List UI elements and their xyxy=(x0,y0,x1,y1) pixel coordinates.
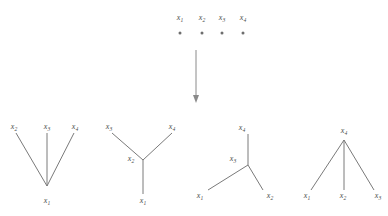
arrow-head xyxy=(193,95,199,103)
subscript: 2 xyxy=(14,126,17,132)
tree-vertex-label-3: x3 xyxy=(105,122,113,132)
subscript: 2 xyxy=(131,158,134,164)
tree-vertex-label-1: x1 xyxy=(139,196,147,206)
subscript: 1 xyxy=(180,17,183,23)
tree-vertex-label-4: x4 xyxy=(340,126,348,136)
tree-enumeration-figure: x1x2x3x4 x2x3x4x1x3x4x2x1x4x3x1x2x4x1x2x… xyxy=(0,0,388,216)
vertex-label-4: x4 xyxy=(239,13,247,23)
vertex-dot-1 xyxy=(179,32,182,35)
tree-vertex-label-2: x2 xyxy=(339,191,347,201)
tree-vertex-label-1: x1 xyxy=(303,191,311,201)
tree-vertex-label-1: x1 xyxy=(196,191,204,201)
tree-vertex-label-4: x4 xyxy=(168,122,176,132)
subscript: 4 xyxy=(242,127,245,133)
downward-arrow xyxy=(193,50,199,103)
tree-edge xyxy=(143,133,172,160)
subscript: 3 xyxy=(377,195,381,201)
subscript: 3 xyxy=(221,17,225,23)
subscript: 3 xyxy=(108,126,112,132)
tree-vertex-label-2: x2 xyxy=(10,122,18,132)
subscript: 4 xyxy=(172,126,175,132)
subscript: 4 xyxy=(243,17,246,23)
subscript: 1 xyxy=(307,195,310,201)
vertex-label-3: x3 xyxy=(218,13,226,23)
subscript: 3 xyxy=(46,126,50,132)
tree-star-center-x4: x4x1x2x3 xyxy=(303,126,382,201)
isolated-vertices-row: x1x2x3x4 xyxy=(176,13,247,35)
tree-edge xyxy=(311,140,344,190)
tree-vertex-label-4: x4 xyxy=(71,122,79,132)
tree-star-center-x1: x2x3x4x1 xyxy=(10,122,79,206)
subscript: 2 xyxy=(270,195,273,201)
subscript: 1 xyxy=(143,200,146,206)
vertex-label-2: x2 xyxy=(198,13,206,23)
vertex-dot-4 xyxy=(242,32,245,35)
vertex-label-1: x1 xyxy=(176,13,184,23)
subscript: 1 xyxy=(200,195,203,201)
subscript: 1 xyxy=(47,200,50,206)
vertex-dot-3 xyxy=(221,32,224,35)
vertex-dot-2 xyxy=(201,32,204,35)
tree-vertex-label-3: x3 xyxy=(43,122,51,132)
spanning-trees-row: x2x3x4x1x3x4x2x1x4x3x1x2x4x1x2x3 xyxy=(10,122,382,206)
subscript: 2 xyxy=(202,17,205,23)
tree-edge xyxy=(47,133,74,186)
tree-vertex-label-3: x3 xyxy=(229,154,237,164)
tree-edge xyxy=(248,165,263,190)
tree-vertex-label-1: x1 xyxy=(43,196,51,206)
tree-edge xyxy=(344,140,374,190)
tree-path-center-x3: x4x3x1x2 xyxy=(196,123,274,201)
tree-vertex-label-4: x4 xyxy=(238,123,246,133)
tree-vertex-label-3: x3 xyxy=(374,191,382,201)
subscript: 2 xyxy=(343,195,346,201)
tree-vertex-label-2: x2 xyxy=(266,191,274,201)
tree-vertex-label-2: x2 xyxy=(127,154,135,164)
tree-edge xyxy=(16,133,47,186)
tree-edge xyxy=(208,165,248,190)
subscript: 4 xyxy=(75,126,78,132)
subscript: 4 xyxy=(344,130,347,136)
subscript: 3 xyxy=(232,158,236,164)
tree-path-center-x2: x3x4x2x1 xyxy=(105,122,176,206)
